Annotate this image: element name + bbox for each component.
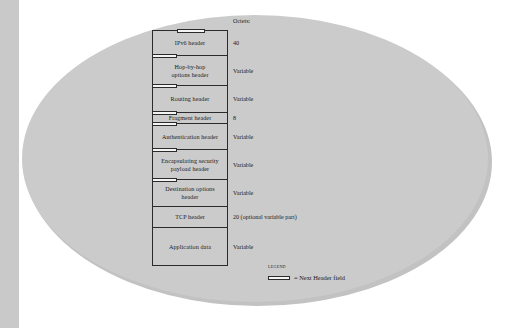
header-block-label: TCP header (173, 213, 207, 221)
octets-value: Variable (233, 162, 253, 168)
octets-value: 8 (233, 115, 236, 121)
octets-value: 40 (233, 40, 239, 46)
header-block: Hop-by-hop options header (152, 56, 228, 86)
next-header-field-marker (152, 84, 177, 88)
header-block-label: Application data (167, 243, 213, 251)
next-header-field-marker (152, 148, 177, 152)
next-header-field-marker (152, 122, 177, 126)
header-block: Application data (152, 228, 228, 266)
next-header-field-marker (177, 29, 205, 33)
header-block-label: Hop-by-hop options header (169, 63, 210, 79)
header-block: Authentication header (152, 124, 228, 150)
left-edge-band (0, 0, 19, 328)
ipv6-header-chain-diagram: IPv6 headerHop-by-hop options headerRout… (152, 30, 228, 266)
header-block-label: IPv6 header (173, 39, 207, 47)
header-block-label: Fragment header (167, 114, 214, 122)
octets-column-header: Octets: (233, 18, 250, 24)
octets-value: 20 (optional variable part) (233, 214, 297, 220)
legend-entry-label: = Next Header field (294, 274, 345, 281)
octets-value: Variable (233, 68, 253, 74)
octets-value: Variable (233, 96, 253, 102)
header-block-label: Authentication header (160, 133, 220, 141)
next-header-field-swatch (268, 276, 290, 280)
header-block-label: Encapsulating security payload header (159, 157, 221, 173)
next-header-field-marker (152, 111, 177, 115)
legend-title: Legend (268, 262, 345, 269)
header-block: Destination options header (152, 180, 228, 207)
figure-canvas: IPv6 headerHop-by-hop options headerRout… (0, 0, 516, 328)
header-block: TCP header (152, 207, 228, 228)
next-header-field-marker (152, 178, 177, 182)
header-block: Encapsulating security payload header (152, 150, 228, 180)
header-block: IPv6 header (152, 30, 228, 56)
header-block-label: Routing header (169, 95, 212, 103)
legend: Legend = Next Header field (268, 262, 345, 281)
octets-value: Variable (233, 244, 253, 250)
header-block: Routing header (152, 86, 228, 113)
next-header-field-marker (152, 54, 177, 58)
header-block-label: Destination options header (163, 185, 216, 201)
background-oval (22, 15, 488, 302)
octets-value: Variable (233, 190, 253, 196)
legend-entry-next-header-field: = Next Header field (268, 274, 345, 281)
octets-value: Variable (233, 134, 253, 140)
